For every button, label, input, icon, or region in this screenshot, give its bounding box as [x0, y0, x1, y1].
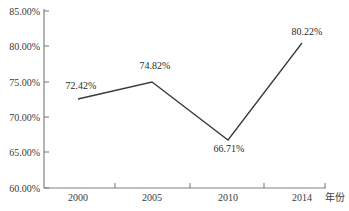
line-chart: 85.00% 80.00% 75.00% 70.00% 65.00% 60.00… — [0, 0, 349, 211]
x-axis-tick-label-2005: 2005 — [132, 192, 172, 203]
data-label-2000: 72.42% — [58, 80, 104, 91]
data-label-2014: 80.22% — [284, 26, 330, 37]
y-axis-tick-label-70: 70.00% — [0, 112, 40, 123]
y-axis-tick-label-65: 65.00% — [0, 147, 40, 158]
data-label-2005: 74.82% — [132, 60, 178, 71]
y-axis-tick-label-80: 80.00% — [0, 41, 40, 52]
x-axis-tick-label-2000: 2000 — [58, 192, 98, 203]
x-axis-tick-label-2010: 2010 — [208, 192, 248, 203]
data-line-series-0 — [78, 43, 302, 140]
x-axis-tick-label-2014: 2014 — [282, 192, 322, 203]
data-label-2010: 66.71% — [206, 143, 252, 154]
y-axis-tick-label-75: 75.00% — [0, 77, 40, 88]
y-axis-tick-label-85: 85.00% — [0, 6, 40, 17]
y-axis-tick-label-60: 60.00% — [0, 183, 40, 194]
x-axis-title: 年份 — [325, 192, 345, 203]
